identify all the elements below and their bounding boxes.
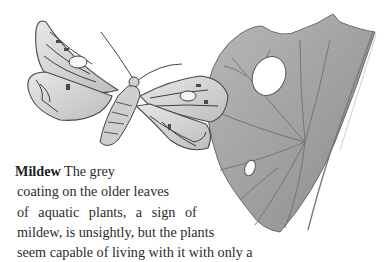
caption-heading: Mildew [15,163,61,179]
caption-line-3: of aquatic plants, a sign of [17,202,345,222]
caption-text: The grey [64,163,115,179]
caption-line-2: coating on the older leaves [17,181,345,201]
caption-block: Mildew The grey coating on the older lea… [15,161,345,262]
moth-drawing [28,21,228,150]
caption-line-1: Mildew The grey [15,161,345,181]
caption-line-4: mildew, is unsightly, but the plants [17,222,345,242]
caption-line-5: seem capable of living with it with only… [17,242,345,262]
